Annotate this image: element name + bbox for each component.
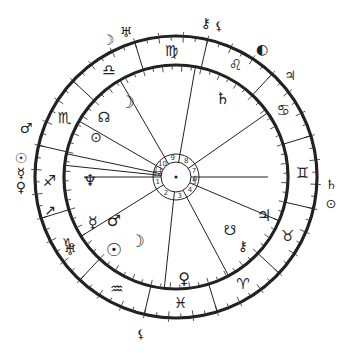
north-node-icon: ☊ xyxy=(98,109,110,125)
tick-outer xyxy=(134,38,135,40)
tick-outer xyxy=(218,313,219,315)
part-of-fortune-icon: ⊙ xyxy=(90,129,102,145)
tick-outer xyxy=(37,219,39,220)
tick xyxy=(233,268,235,271)
house-number-1: 1 xyxy=(156,178,160,186)
tick xyxy=(66,91,68,93)
sign-virgo-icon: ♍ xyxy=(165,42,178,60)
tick-outer xyxy=(315,209,317,210)
tick-outer xyxy=(280,274,282,276)
sign-boundary-line xyxy=(39,145,67,152)
tick xyxy=(217,75,219,80)
astrology-wheel: ♍♌♋♊♉♈♓♒♑♐♏♎ 123456789101112 ☽☊⊙♄♆☿♂☉☽♅♀… xyxy=(0,0,354,353)
house-number-6: 6 xyxy=(193,175,198,183)
tick-outer xyxy=(43,120,45,121)
tick-outer xyxy=(60,263,62,265)
tick-outer xyxy=(47,242,49,243)
house-number-2: 2 xyxy=(164,189,168,197)
tick-outer xyxy=(89,61,91,63)
tick-outer xyxy=(97,297,98,299)
tick-outer xyxy=(208,36,209,38)
tick xyxy=(43,134,46,135)
tick xyxy=(113,53,115,57)
tick xyxy=(153,69,154,72)
tick xyxy=(237,297,239,301)
mars-outer-icon: ♂ xyxy=(20,120,33,136)
tick-outer xyxy=(110,48,111,50)
sign-pisces-icon: ♓ xyxy=(174,294,187,312)
zodiac-rings xyxy=(35,36,317,318)
sign-boundary-line xyxy=(283,136,311,144)
tick xyxy=(192,310,193,315)
venus-outer-icon: ♀ xyxy=(16,179,26,195)
tick-outer xyxy=(232,44,233,46)
moon-2-icon: ☽ xyxy=(129,231,144,251)
tick xyxy=(111,298,112,301)
tick xyxy=(253,249,257,252)
tick xyxy=(207,278,208,283)
tick-outer xyxy=(273,71,275,73)
tick xyxy=(309,160,314,161)
tick xyxy=(126,79,128,83)
tick xyxy=(289,250,293,253)
tick xyxy=(264,234,268,237)
tick xyxy=(270,127,274,129)
house-number-3: 3 xyxy=(177,192,181,200)
tick xyxy=(233,84,236,88)
tick xyxy=(65,258,69,261)
tick xyxy=(257,284,260,288)
fortune-outer-icon: ⊙ xyxy=(326,196,337,211)
house-number-7: 7 xyxy=(192,167,196,175)
sign-scorpio-icon: ♏ xyxy=(58,109,72,127)
tick xyxy=(68,152,73,153)
tick xyxy=(66,190,71,191)
sign-aries-icon: ♈ xyxy=(236,275,249,293)
tick xyxy=(52,238,56,240)
south-node-icon: ☋ xyxy=(224,222,236,238)
tick xyxy=(277,145,282,146)
tick xyxy=(260,67,262,69)
house-cusp-line xyxy=(179,67,196,163)
tick-outer xyxy=(143,316,144,318)
sun-outer-top-icon: ◐ xyxy=(256,41,268,57)
venus-icon: ♀ xyxy=(178,269,190,288)
tick xyxy=(283,93,287,96)
tick-outer xyxy=(119,308,120,310)
tick xyxy=(284,261,286,263)
neptune-icon: ♆ xyxy=(83,171,97,190)
sign-boundary-line xyxy=(209,284,217,312)
saturn-outer-icon: ♄ xyxy=(325,177,337,192)
moon-icon: ☽ xyxy=(119,92,134,112)
tick xyxy=(296,114,300,116)
tick-outer xyxy=(70,78,72,80)
tick xyxy=(74,217,77,218)
tick xyxy=(92,66,95,70)
sign-cancer-icon: ♋ xyxy=(277,101,290,119)
tick xyxy=(101,254,104,258)
tick xyxy=(163,67,164,72)
tick xyxy=(116,265,119,269)
house-cusp-line xyxy=(183,190,229,276)
tick xyxy=(95,102,99,105)
chiron-icon: ⚷ xyxy=(238,238,248,254)
house-number-4: 4 xyxy=(188,186,193,194)
tick xyxy=(306,219,309,220)
tick xyxy=(248,257,250,259)
tick xyxy=(53,112,56,113)
lilith-bottom-icon: ⚸ xyxy=(137,327,146,341)
sign-taurus-icon: ♉ xyxy=(281,227,294,245)
jupiter-outer-icon: ♃ xyxy=(284,68,296,83)
sign-boundary-line xyxy=(144,286,151,314)
sun-outer-icon: ☉ xyxy=(15,150,28,166)
tick-outer xyxy=(307,233,309,234)
sun-icon: ☉ xyxy=(106,239,122,260)
mars-icon: ♂ xyxy=(107,211,121,230)
tick xyxy=(59,101,63,104)
tick xyxy=(276,136,279,137)
house-cusp-line xyxy=(188,113,267,169)
tick-outer xyxy=(303,111,305,112)
tick xyxy=(142,279,143,282)
tick-outer xyxy=(54,98,56,99)
sign-sagittarius-icon: ♐ xyxy=(43,172,56,190)
sign-aquarius-icon: ♒ xyxy=(110,280,123,298)
